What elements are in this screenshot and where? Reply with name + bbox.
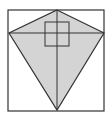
kite-in-rectangle-diagram	[0, 0, 109, 122]
